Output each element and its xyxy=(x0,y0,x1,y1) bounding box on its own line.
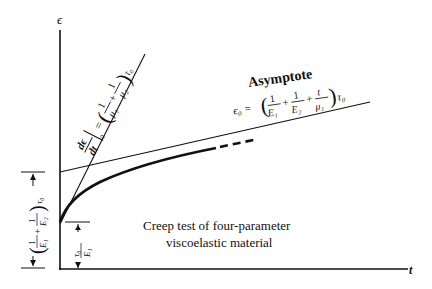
svg-text:+: + xyxy=(305,92,313,105)
svg-text:τ₀: τ₀ xyxy=(71,251,81,257)
tangent-equation: dϵ dt 0 = ( 1 μ₁ + 1 μ₂ ) τ₀ xyxy=(73,61,140,158)
svg-text:1: 1 xyxy=(27,241,37,246)
svg-text:1: 1 xyxy=(95,101,107,110)
svg-text:1: 1 xyxy=(293,89,299,101)
creep-diagram: ϵ t Asymptote ϵ₀ = ( 1 E₁ + 1 E₂ + t μ₁ … xyxy=(0,0,432,289)
svg-text:0: 0 xyxy=(98,133,107,140)
creep-curve xyxy=(60,148,216,222)
y-axis-label: ϵ xyxy=(57,12,63,27)
svg-text:μ₁: μ₁ xyxy=(314,100,325,112)
asymptote-label: Asymptote xyxy=(247,66,313,90)
svg-text:): ) xyxy=(26,205,49,212)
svg-text:t: t xyxy=(317,86,322,97)
svg-text:τ₀: τ₀ xyxy=(336,90,346,103)
caption-line-1: Creep test of four-parameter xyxy=(143,218,291,233)
asymptote-intercept-dimension: ( 1 E₁ + 1 E₂ ) τ₀ xyxy=(21,172,49,268)
svg-text:+: + xyxy=(32,228,43,234)
instant-strain-dimension: τ₀ E₁ xyxy=(65,222,92,268)
svg-text:dt: dt xyxy=(85,143,100,157)
svg-text:E₂: E₂ xyxy=(290,103,303,115)
caption-line-2: viscoelastic material xyxy=(166,235,273,250)
svg-text:+: + xyxy=(282,96,290,109)
svg-text:E₁: E₁ xyxy=(82,248,92,258)
svg-text:E₂: E₂ xyxy=(38,217,48,227)
svg-text:E₁: E₁ xyxy=(266,106,278,118)
x-axis-label: t xyxy=(409,263,413,277)
svg-text:1: 1 xyxy=(27,219,37,224)
svg-text:1: 1 xyxy=(105,81,117,90)
svg-text:ϵ₀ =: ϵ₀ = xyxy=(232,102,252,116)
svg-text:E₁: E₁ xyxy=(38,239,48,249)
creep-curve-dashed xyxy=(220,139,258,147)
svg-text:τ₀: τ₀ xyxy=(34,198,44,204)
svg-text:1: 1 xyxy=(269,93,275,105)
